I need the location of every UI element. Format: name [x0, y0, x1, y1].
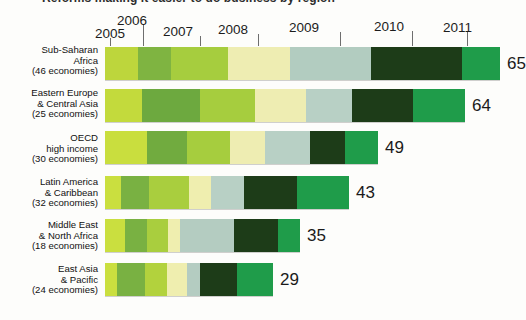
year-label-2009: 2009: [289, 20, 319, 35]
bar-segment-2006[interactable]: [125, 219, 147, 252]
bar-segment-2008[interactable]: [167, 263, 187, 296]
bar-value: 29: [280, 263, 299, 296]
year-axis: 2005200620072008200920102011: [0, 0, 513, 46]
bar-segment-2009[interactable]: [290, 47, 371, 80]
bar-segment-2011[interactable]: [278, 219, 300, 252]
bar-segment-2006[interactable]: [117, 263, 145, 296]
bar-segment-2006[interactable]: [138, 47, 171, 80]
bar-segment-2005[interactable]: [105, 176, 121, 209]
year-label-2008: 2008: [218, 22, 248, 37]
bar-segment-2006[interactable]: [147, 131, 187, 164]
year-label-2010: 2010: [374, 19, 404, 34]
year-tick-2007: [200, 36, 201, 46]
bar-segment-2011[interactable]: [297, 176, 349, 209]
bar-segment-2007[interactable]: [187, 131, 230, 164]
bar-segment-2011[interactable]: [345, 131, 378, 164]
bar-segment-2009[interactable]: [265, 131, 310, 164]
bar-segment-2008[interactable]: [230, 131, 265, 164]
row-label: Latin America & Caribbean (32 economies): [0, 177, 98, 209]
bar-segment-2005[interactable]: [105, 219, 125, 252]
year-tick-2011: [467, 32, 468, 46]
bar-value: 65: [507, 47, 526, 80]
bar-segment-2010[interactable]: [371, 47, 462, 80]
bar-segment-2007[interactable]: [147, 219, 168, 252]
bar-segment-2008[interactable]: [189, 176, 211, 209]
bar-value: 49: [385, 131, 404, 164]
year-label-2007: 2007: [163, 24, 193, 39]
bar-segment-2010[interactable]: [244, 176, 297, 209]
row-label: Eastern Europe & Central Asia (25 econom…: [0, 88, 98, 120]
row-label: OECD high income (30 economies): [0, 133, 98, 165]
bar-segment-2005[interactable]: [105, 131, 147, 164]
bar-segment-2011[interactable]: [237, 263, 273, 296]
bar-segment-2007[interactable]: [200, 89, 255, 122]
bar-segment-2009[interactable]: [306, 89, 352, 122]
bar-segment-2011[interactable]: [413, 89, 465, 122]
year-tick-2010: [412, 31, 413, 46]
row-label: Middle East & North Africa (18 economies…: [0, 220, 98, 252]
stacked-bar[interactable]: [105, 89, 465, 122]
year-tick-2005: [110, 38, 111, 46]
bar-segment-2010[interactable]: [234, 219, 278, 252]
stacked-bar[interactable]: [105, 47, 500, 80]
bar-segment-2009[interactable]: [180, 219, 234, 252]
bar-segment-2008[interactable]: [255, 89, 306, 122]
bar-segment-2008[interactable]: [168, 219, 180, 252]
stacked-bar[interactable]: [105, 263, 273, 296]
year-tick-2008: [258, 34, 259, 46]
bar-segment-2008[interactable]: [228, 47, 290, 80]
bar-segment-2007[interactable]: [171, 47, 228, 80]
year-tick-2009: [340, 32, 341, 46]
bar-segment-2005[interactable]: [105, 89, 142, 122]
bar-segment-2011[interactable]: [462, 47, 500, 80]
bar-segment-2009[interactable]: [187, 263, 200, 296]
bar-segment-2006[interactable]: [142, 89, 200, 122]
bar-segment-2010[interactable]: [310, 131, 345, 164]
bar-segment-2007[interactable]: [149, 176, 189, 209]
stacked-bar[interactable]: [105, 176, 349, 209]
bar-segment-2007[interactable]: [145, 263, 167, 296]
bar-segment-2005[interactable]: [105, 47, 138, 80]
row-label: East Asia & Pacific (24 economies): [0, 264, 98, 296]
year-tick-2006: [143, 25, 144, 46]
bar-value: 43: [356, 176, 375, 209]
bar-segment-2010[interactable]: [352, 89, 413, 122]
bar-segment-2005[interactable]: [105, 263, 117, 296]
bar-value: 35: [307, 219, 326, 252]
stacked-bar[interactable]: [105, 131, 378, 164]
bar-segment-2010[interactable]: [200, 263, 237, 296]
bar-segment-2009[interactable]: [211, 176, 244, 209]
row-label: Sub-Saharan Africa (46 economies): [0, 45, 98, 77]
bar-value: 64: [472, 89, 491, 122]
bar-segment-2006[interactable]: [121, 176, 149, 209]
stacked-bar[interactable]: [105, 219, 300, 252]
